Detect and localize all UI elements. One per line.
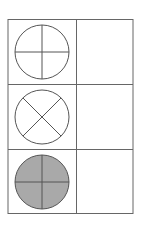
symbol-circle-plus	[15, 25, 69, 79]
symbol-circle-plus-filled	[15, 155, 69, 209]
symbol-table	[0, 0, 142, 226]
symbol-circle-x	[15, 90, 69, 144]
